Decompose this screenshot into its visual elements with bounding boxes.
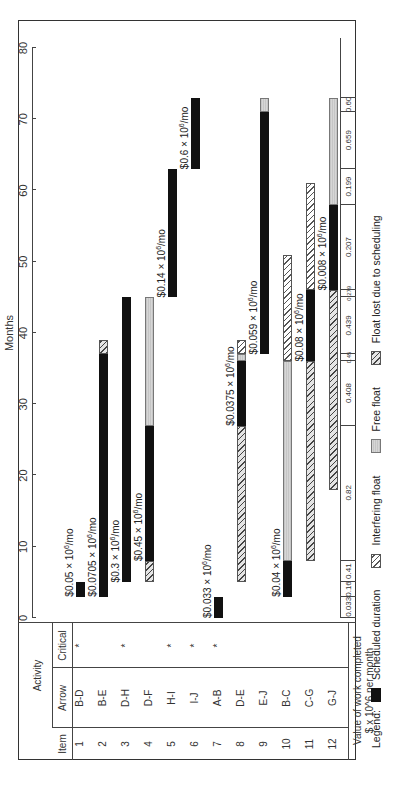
legend-swatch-interfering-float <box>371 554 381 568</box>
value-strip-cell: 0.439 <box>341 297 356 354</box>
bar-free-float <box>260 98 269 112</box>
bar-scheduled <box>283 561 292 597</box>
critical-marker: * <box>74 623 85 668</box>
axis-tick <box>32 617 36 618</box>
bar-float-lost <box>145 561 154 582</box>
axis-tick-label: 0 <box>17 615 29 621</box>
axis-tick <box>32 546 36 547</box>
row-item-number: 5 <box>166 728 177 760</box>
axis-line <box>32 48 33 618</box>
rate-label: $0.059 × 106/mo <box>247 281 259 355</box>
value-strip-cell: 0.82 <box>341 426 356 561</box>
row-arrow: B-C <box>281 668 292 728</box>
table-header-divider <box>72 623 73 760</box>
row-item-number: 3 <box>120 728 131 760</box>
critical-header: Critical <box>57 623 68 668</box>
bar-interfering-float <box>306 183 315 290</box>
rate-label: $0.033 × 106/mo <box>201 544 213 618</box>
critical-marker: * <box>166 623 177 668</box>
value-strip-cell: 0.033 <box>341 597 356 618</box>
row-arrow: D-E <box>235 668 246 728</box>
value-strip-cell: 0.659 <box>341 112 356 169</box>
rate-label: $0.45 × 106/mo <box>132 493 144 561</box>
bar-scheduled <box>191 98 200 169</box>
legend-swatch-float-lost <box>371 351 381 365</box>
axis-tick-label: 80 <box>17 42 29 54</box>
axis-tick <box>32 332 36 333</box>
table-footer-divider <box>348 623 349 760</box>
axis-tick-label: 20 <box>17 469 29 481</box>
axis-tick-label: 40 <box>17 327 29 339</box>
bar-interfering-float <box>237 340 246 354</box>
bar-free-float <box>283 362 292 562</box>
bar-scheduled <box>214 597 223 618</box>
row-item-number: 1 <box>74 728 85 760</box>
value-strip-cell: 0.16 <box>341 582 356 596</box>
row-item-number: 2 <box>97 728 108 760</box>
axis-tick-label: 50 <box>17 256 29 268</box>
rate-label: $0.0375 × 106/mo <box>224 346 236 425</box>
row-arrow: B-D <box>74 668 85 728</box>
activity-group-header: Activity <box>32 623 43 728</box>
axis-tick-label: 30 <box>17 398 29 410</box>
axis-tick-label: 10 <box>17 541 29 553</box>
row-arrow: G-J <box>327 668 338 728</box>
table-header-divider <box>52 623 53 728</box>
value-strip-cell: 0.60 <box>341 98 356 112</box>
row-item-number: 12 <box>327 728 338 760</box>
rate-label: $0.6 × 106/mo <box>178 107 190 170</box>
rate-label: $0.008 × 106/mo <box>316 217 328 291</box>
item-header: Item <box>57 728 68 760</box>
axis-title: Months <box>3 315 15 351</box>
row-item-number: 4 <box>143 728 154 760</box>
row-item-number: 7 <box>212 728 223 760</box>
value-strip-cell: 0.199 <box>341 169 356 205</box>
rate-label: $0.04 × 106/mo <box>270 529 282 597</box>
bar-scheduled <box>99 354 108 596</box>
table-border <box>18 622 356 623</box>
value-strip-cell: 0.41 <box>341 561 356 582</box>
axis-tick <box>32 118 36 119</box>
value-strip-box: 0.0330.160.410.820.4080.450.4390.2790.20… <box>340 38 356 618</box>
bar-free-float <box>329 98 338 205</box>
legend-label: Scheduled duration <box>370 590 382 681</box>
arrow-header: Arrow <box>57 668 68 728</box>
legend: Legend:Scheduled durationInterfering flo… <box>370 201 382 748</box>
rate-label: $0.0705 × 106/mo <box>86 517 98 596</box>
row-arrow: I-J <box>189 668 200 728</box>
bar-float-lost <box>329 290 338 490</box>
axis-tick <box>32 475 36 476</box>
rotated-chart-canvas: ActivityItemArrowCritical1B-D*2B-E3D-H*4… <box>0 0 413 788</box>
critical-marker: * <box>120 623 131 668</box>
row-item-number: 6 <box>189 728 200 760</box>
row-arrow: C-G <box>304 668 315 728</box>
axis-tick-label: 70 <box>17 113 29 125</box>
bar-float-lost <box>237 426 246 583</box>
row-arrow: D-H <box>120 668 131 728</box>
bar-scheduled <box>145 426 154 561</box>
legend-label: Interfering float <box>370 475 382 545</box>
axis-tick-label: 60 <box>17 184 29 196</box>
bar-float-lost <box>99 340 108 354</box>
axis-tick <box>32 261 36 262</box>
row-item-number: 9 <box>258 728 269 760</box>
value-strip-cell: 0.207 <box>341 205 356 291</box>
legend-swatch-free-float <box>371 439 381 453</box>
bar-scheduled <box>76 582 85 596</box>
value-strip-cell: 0.408 <box>341 362 356 426</box>
rate-label: $0.14 × 106/mo <box>155 229 167 297</box>
bar-float-lost <box>306 362 315 562</box>
row-item-number: 11 <box>304 728 315 760</box>
value-strip-end <box>341 97 356 98</box>
legend-title: Legend: <box>370 710 382 748</box>
critical-marker: * <box>212 623 223 668</box>
rate-label: $0.08 × 106/mo <box>293 293 305 361</box>
legend-label: Float lost due to scheduling <box>370 215 382 343</box>
rate-label: $0.3 × 106/mo <box>109 520 121 583</box>
bar-free-float <box>145 297 154 425</box>
value-strip-cell: 0.279 <box>341 290 356 297</box>
legend-label: Free float <box>370 387 382 431</box>
bar-scheduled <box>260 112 269 354</box>
axis-tick <box>32 190 36 191</box>
axis-tick <box>32 47 36 48</box>
